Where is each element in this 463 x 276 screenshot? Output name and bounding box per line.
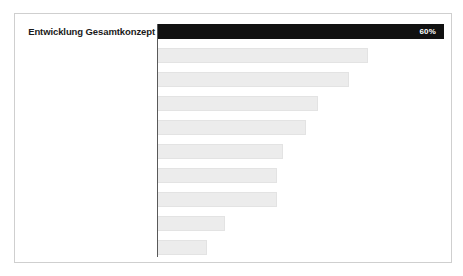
bar-row <box>158 144 283 159</box>
bar-row <box>158 96 318 111</box>
bar-row: 60% <box>158 24 444 39</box>
bar[interactable] <box>158 96 318 111</box>
bar-category-label: Entwicklung Gesamtkonzept <box>23 24 155 39</box>
bar-series: 60% <box>158 24 451 262</box>
bar-row <box>158 48 368 63</box>
bar[interactable] <box>158 168 277 183</box>
bar-value-label: 60% <box>419 28 436 36</box>
chart-plot-area: Entwicklung Gesamtkonzept 60% <box>15 14 451 262</box>
chart-frame: Entwicklung Gesamtkonzept 60% <box>14 13 452 263</box>
bar-row <box>158 168 277 183</box>
bar-row <box>158 240 207 255</box>
bar[interactable] <box>158 216 225 231</box>
bar[interactable] <box>158 120 306 135</box>
bar[interactable] <box>158 192 277 207</box>
bar-row <box>158 216 225 231</box>
bar[interactable] <box>158 144 283 159</box>
screenshot-root: Entwicklung Gesamtkonzept 60% <box>0 0 463 276</box>
bar-highlighted[interactable]: 60% <box>158 24 444 39</box>
bar-row <box>158 192 277 207</box>
bar-row <box>158 72 349 87</box>
bar[interactable] <box>158 72 349 87</box>
bar-row <box>158 120 306 135</box>
bar[interactable] <box>158 240 207 255</box>
bar[interactable] <box>158 48 368 63</box>
